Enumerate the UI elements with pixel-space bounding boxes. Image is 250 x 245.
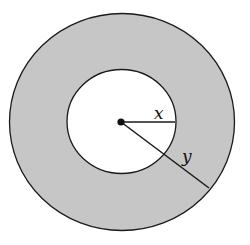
annulus-diagram: x y bbox=[0, 0, 250, 245]
center-point bbox=[117, 118, 124, 125]
outer-radius-label: y bbox=[181, 146, 192, 166]
inner-radius-label: x bbox=[154, 103, 164, 123]
